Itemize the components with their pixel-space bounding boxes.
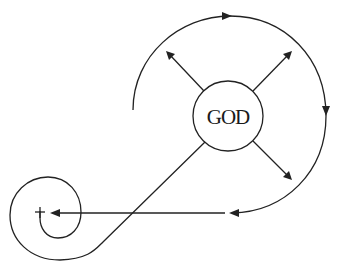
radial-arrow-upper-left	[170, 55, 204, 91]
radial-arrow-upper-right	[253, 55, 288, 91]
spiral-connector-and-spiral	[10, 142, 205, 260]
return-arrowhead	[50, 209, 60, 217]
god-label: GOD	[207, 105, 250, 129]
arc-arrowhead-top	[222, 12, 232, 20]
arc-arrowhead-right	[322, 106, 330, 116]
radial-arrow-lower-right	[253, 141, 288, 176]
god-cycle-diagram: GOD	[0, 0, 337, 273]
arc-arrowhead-bottom	[229, 209, 239, 217]
